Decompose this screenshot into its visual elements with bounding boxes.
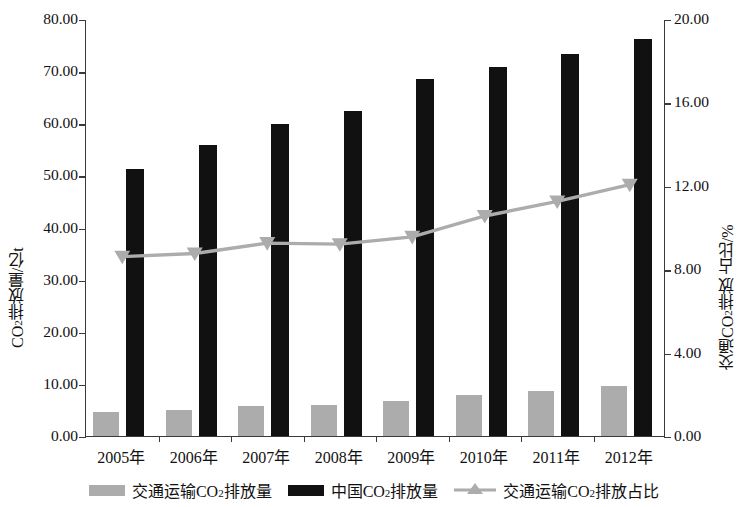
right-axis-tickmark (664, 187, 671, 188)
left-axis-tick-label: 10.00 (20, 375, 78, 393)
bar-transport-co2 (601, 386, 627, 436)
left-axis-tick-label: 50.00 (20, 166, 78, 184)
plot-area (85, 20, 665, 437)
right-axis-tick-label: 8.00 (674, 260, 734, 278)
legend-item: 交通运输CO2排放量 (89, 478, 272, 502)
right-axis-tick-label: 20.00 (674, 10, 734, 28)
x-axis-tickmark (304, 436, 305, 442)
legend-line-marker-icon (454, 482, 496, 498)
left-axis-tickmark (79, 176, 86, 177)
left-axis-tick-labels: 0.0010.0020.0030.0040.0050.0060.0070.008… (20, 0, 78, 507)
left-axis-tickmark (79, 437, 86, 438)
bar-china-co2 (416, 79, 434, 436)
bar-china-co2 (561, 54, 579, 436)
left-axis-tick-label: 0.00 (20, 427, 78, 445)
legend-item-label: 中国CO2排放量 (331, 478, 439, 502)
left-axis-tickmark (79, 333, 86, 334)
left-axis-tick-label: 70.00 (20, 62, 78, 80)
chart-legend: 交通运输CO2排放量中国CO2排放量交通运输CO2排放占比 (0, 478, 748, 502)
chart-figure: CO2排放量/亿t 交通CO2排放 占比/% 0.0010.0020.0030.… (0, 0, 748, 507)
left-axis-tick-label: 60.00 (20, 114, 78, 132)
right-axis-tickmark (664, 270, 671, 271)
legend-item: 中国CO2排放量 (288, 478, 439, 502)
bar-transport-co2 (528, 391, 554, 436)
bar-transport-co2 (93, 412, 119, 436)
x-axis-tickmark (449, 436, 450, 442)
bar-china-co2 (344, 111, 362, 436)
left-axis-tick-label: 80.00 (20, 10, 78, 28)
right-axis-tickmark (664, 20, 671, 21)
right-axis-tick-label: 16.00 (674, 93, 734, 111)
legend-item-label: 交通运输CO2排放量 (132, 478, 272, 502)
left-axis-tickmark (79, 281, 86, 282)
x-axis-tickmark (594, 436, 595, 442)
right-axis-tick-label: 4.00 (674, 344, 734, 362)
bar-transport-co2 (456, 395, 482, 436)
x-axis-tickmark (521, 436, 522, 442)
right-axis-tickmark (664, 354, 671, 355)
legend-black-swatch-icon (288, 485, 324, 496)
left-axis-tickmark (79, 20, 86, 21)
right-axis-tickmark (664, 437, 671, 438)
legend-item-label: 交通运输CO2排放占比 (503, 478, 659, 502)
legend-gray-swatch-icon (89, 485, 125, 496)
bar-transport-co2 (166, 410, 192, 436)
left-axis-tickmark (79, 229, 86, 230)
x-axis-tickmark (159, 436, 160, 442)
left-axis-tick-label: 30.00 (20, 271, 78, 289)
bar-transport-co2 (238, 406, 264, 436)
bar-china-co2 (271, 124, 289, 436)
x-axis-category-label: 2012年 (584, 444, 674, 468)
x-axis-tickmark (231, 436, 232, 442)
right-axis-tick-labels: 0.004.008.0012.0016.0020.00 (674, 0, 734, 507)
bar-china-co2 (489, 67, 507, 436)
left-axis-tickmark (79, 385, 86, 386)
left-axis-tickmark (79, 72, 86, 73)
bar-transport-co2 (383, 401, 409, 436)
left-axis-tick-label: 40.00 (20, 219, 78, 237)
legend-item: 交通运输CO2排放占比 (454, 478, 659, 502)
bar-china-co2 (199, 145, 217, 436)
left-axis-tick-label: 20.00 (20, 323, 78, 341)
right-axis-tickmark (664, 103, 671, 104)
bar-china-co2 (126, 169, 144, 436)
right-axis-tick-label: 12.00 (674, 177, 734, 195)
bar-transport-co2 (311, 405, 337, 436)
x-axis-tickmark (376, 436, 377, 442)
left-axis-tickmark (79, 124, 86, 125)
bar-china-co2 (634, 39, 652, 436)
right-axis-tick-label: 0.00 (674, 427, 734, 445)
